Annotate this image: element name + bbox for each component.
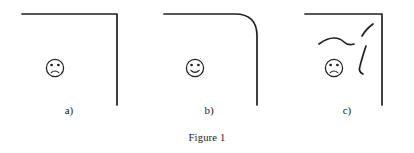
- panel-b: b): [140, 0, 278, 126]
- wall-corner-sharp: [305, 14, 382, 105]
- panel-b-label: b): [140, 103, 278, 117]
- wall-corner-sharp: [22, 14, 117, 105]
- panel-c: c): [278, 0, 414, 126]
- frowning-face-icon: [325, 59, 342, 76]
- panel-a: a): [0, 0, 138, 126]
- smiling-face-icon: [186, 59, 203, 76]
- squiggle-stroke-lower-right: [359, 46, 366, 74]
- figure-caption: Figure 1: [0, 131, 414, 145]
- squiggle-stroke-upper-right: [362, 24, 373, 36]
- panel-c-label: c): [278, 103, 414, 117]
- frowning-face-icon: [46, 59, 63, 76]
- squiggle-wave-left: [319, 38, 354, 45]
- figure-container: a) b) c) Fi: [0, 0, 414, 153]
- panel-a-label: a): [0, 103, 138, 117]
- wall-corner-rounded: [164, 14, 257, 105]
